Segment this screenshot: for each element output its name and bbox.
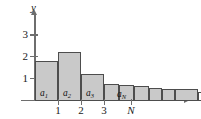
bar-7 [149, 88, 162, 101]
x-tick-label-N: N [124, 105, 138, 116]
bar-8 [162, 89, 175, 101]
x-tick-label-1: 1 [51, 105, 65, 116]
bar-label-aN-subscript: N [122, 93, 126, 100]
bar-label-a3: a3 [86, 89, 94, 99]
y-tick-label-2: 2 [16, 51, 28, 62]
bar-label-a3-subscript: 3 [91, 92, 94, 99]
bar-label-a2: a2 [63, 89, 71, 99]
bar-aN [175, 89, 198, 100]
bar-label-a1-subscript: 1 [45, 92, 48, 99]
series-bar-diagram: y x 3 2 1 a1 a2 a3 aN 1 2 3 N [0, 0, 201, 119]
bar-10 [198, 92, 201, 101]
bar-label-aN: aN [117, 90, 126, 100]
bar-label-a1: a1 [40, 89, 48, 99]
x-tick-label-3: 3 [97, 105, 111, 116]
y-tick-mark-2 [30, 56, 38, 57]
y-tick-mark-3 [30, 34, 38, 35]
y-tick-label-3: 3 [16, 29, 28, 40]
y-axis-label: y [31, 2, 36, 13]
y-tick-label-1: 1 [16, 73, 28, 84]
bar-6 [134, 86, 149, 100]
bar-label-a2-subscript: 2 [68, 92, 71, 99]
x-tick-label-2: 2 [74, 105, 88, 116]
